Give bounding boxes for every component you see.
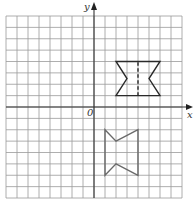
- axes: x y 0: [6, 1, 193, 198]
- coordinate-plane: x y 0: [0, 0, 196, 201]
- origin-label: 0: [87, 107, 94, 118]
- coordinate-grid-figure: x y 0: [0, 0, 196, 201]
- x-axis-label: x: [187, 109, 193, 120]
- y-axis-label: y: [83, 1, 90, 12]
- y-axis-arrow-icon: [91, 2, 97, 10]
